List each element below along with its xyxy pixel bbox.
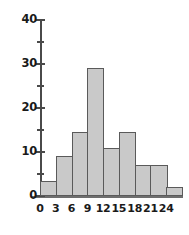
histogram-bar [56,156,73,196]
histogram-bar [166,187,183,196]
y-axis-tick-label: 20 [7,102,37,114]
histogram-bar [87,68,104,196]
histogram-chart: 010203040 03691215182124 [0,0,189,235]
y-axis-tick-label: 40 [7,14,37,26]
histogram-bar [150,165,167,196]
x-axis-tick-label: 24 [157,203,175,214]
histogram-bar [72,132,89,196]
histogram-bar [40,181,57,196]
histogram-bar [103,148,120,196]
y-axis-tick-label: 10 [7,146,37,158]
plot-area [40,20,182,196]
y-axis-tick-label: 0 [7,190,37,202]
histogram-bar [135,165,152,196]
histogram-bar [119,132,136,196]
x-axis-line [31,196,183,198]
y-axis-tick-label: 30 [7,58,37,70]
